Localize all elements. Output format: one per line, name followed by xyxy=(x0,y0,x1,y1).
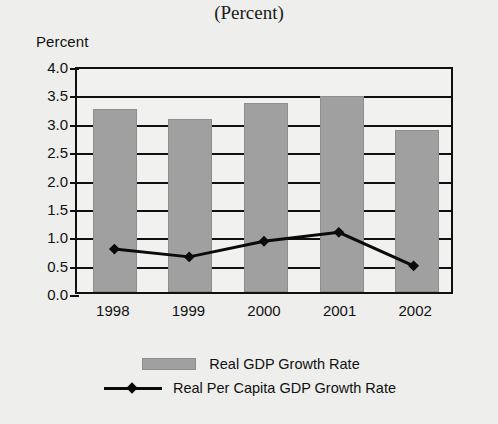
y-axis-title: Percent xyxy=(36,33,88,50)
y-axis-tick-label: 4.0 xyxy=(0,59,68,76)
line-marker-1998 xyxy=(109,244,120,255)
y-axis-tick-label: 3.0 xyxy=(0,115,68,132)
x-axis-label-2001: 2001 xyxy=(323,302,356,319)
y-axis-tick xyxy=(70,295,79,297)
legend-swatch-line xyxy=(102,382,164,394)
line-marker-1999 xyxy=(184,251,195,262)
line-marker-2002 xyxy=(408,260,419,271)
legend-item-line: Real Per Capita GDP Growth Rate xyxy=(0,376,498,400)
chart-figure: (Percent) Percent 4.03.53.02.52.01.51.00… xyxy=(0,0,498,424)
legend-label-bar: Real GDP Growth Rate xyxy=(209,356,359,372)
y-axis-tick-label: 1.5 xyxy=(0,200,68,217)
chart-subtitle: (Percent) xyxy=(0,2,498,24)
y-axis-tick-label: 1.0 xyxy=(0,229,68,246)
legend-swatch-bar xyxy=(138,358,200,370)
chart-legend: Real GDP Growth Rate Real Per Capita GDP… xyxy=(0,352,498,400)
x-axis-label-1999: 1999 xyxy=(172,302,205,319)
line-series-group xyxy=(77,69,451,292)
x-axis-label-1998: 1998 xyxy=(96,302,129,319)
y-axis-tick-label: 3.5 xyxy=(0,87,68,104)
line-marker-2000 xyxy=(259,236,270,247)
legend-item-bar: Real GDP Growth Rate xyxy=(0,352,498,376)
x-axis-label-2000: 2000 xyxy=(247,302,280,319)
y-axis-tick-label: 0.5 xyxy=(0,257,68,274)
plot-area xyxy=(75,67,453,294)
x-axis-label-2002: 2002 xyxy=(399,302,432,319)
line-marker-2001 xyxy=(333,227,344,238)
y-axis-tick-label: 2.0 xyxy=(0,172,68,189)
y-axis-tick-label: 2.5 xyxy=(0,144,68,161)
y-axis-tick-label: 0.0 xyxy=(0,286,68,303)
legend-label-line: Real Per Capita GDP Growth Rate xyxy=(173,380,396,396)
line-marker-icon xyxy=(104,382,162,394)
